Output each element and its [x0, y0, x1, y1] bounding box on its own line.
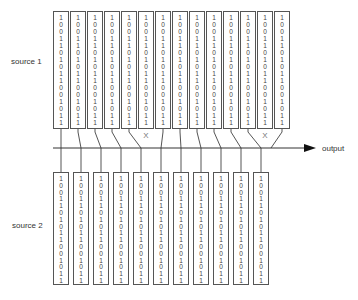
bit: 0 [195, 49, 199, 56]
bit: 0 [178, 84, 182, 91]
bit: 0 [280, 63, 284, 70]
bit: 1 [178, 77, 182, 84]
source-2-column: 1001101011001011 [54, 173, 69, 285]
bit: 1 [76, 56, 80, 63]
bit: 0 [246, 28, 250, 35]
bit: 1 [263, 14, 267, 21]
bit: 1 [127, 14, 131, 21]
bit: 0 [263, 63, 267, 70]
bit: 1 [280, 98, 284, 105]
bit: 0 [59, 28, 63, 35]
bit: 1 [229, 35, 233, 42]
bit: 1 [93, 77, 97, 84]
bit: 0 [76, 63, 80, 70]
bit: 1 [280, 70, 284, 77]
bit: 1 [127, 119, 131, 126]
bit: 0 [178, 91, 182, 98]
stream-merge-diagram: source 1 source 2 1001101011001011100110… [0, 0, 358, 300]
bit: 1 [246, 112, 250, 119]
bit: 1 [144, 119, 148, 126]
bit: 1 [59, 14, 63, 21]
bit: 0 [263, 28, 267, 35]
bit: 1 [263, 70, 267, 77]
bit: 0 [280, 105, 284, 112]
bit: 0 [178, 63, 182, 70]
bit: 1 [178, 35, 182, 42]
bit: 1 [246, 56, 250, 63]
bit: 0 [59, 105, 63, 112]
bit: 1 [178, 42, 182, 49]
bit: 1 [127, 70, 131, 77]
bit: 0 [127, 84, 131, 91]
bit: 1 [229, 98, 233, 105]
route-line [129, 128, 141, 148]
bit: 1 [59, 77, 63, 84]
bit: 1 [263, 42, 267, 49]
bit: 1 [212, 14, 216, 21]
bit: 0 [263, 84, 267, 91]
bit: 1 [195, 56, 199, 63]
bit: 1 [195, 119, 199, 126]
bit: 0 [263, 49, 267, 56]
bit: 1 [93, 35, 97, 42]
bit: 1 [229, 42, 233, 49]
bit: 1 [76, 98, 80, 105]
bit: 1 [93, 70, 97, 77]
bit: 1 [195, 112, 199, 119]
bit: 0 [246, 105, 250, 112]
bit: 1 [263, 112, 267, 119]
bit: 1 [199, 277, 203, 284]
bit: 1 [229, 70, 233, 77]
bit: 1 [59, 70, 63, 77]
bit: 1 [144, 35, 148, 42]
bit: 0 [229, 63, 233, 70]
bit: 0 [161, 28, 165, 35]
bit: 1 [127, 35, 131, 42]
bit: 1 [76, 35, 80, 42]
bit: 1 [110, 77, 114, 84]
bit: 0 [212, 28, 216, 35]
bit: 0 [229, 49, 233, 56]
source-1-column: 1001101011001011 [190, 12, 205, 129]
source-1-column: 1001101011001011 [54, 12, 69, 129]
bit: 0 [178, 21, 182, 28]
bit: 0 [76, 28, 80, 35]
bit: 1 [195, 14, 199, 21]
bit: 0 [263, 105, 267, 112]
bit: 0 [195, 21, 199, 28]
bit: 1 [246, 98, 250, 105]
bit: 1 [246, 14, 250, 21]
route-line [95, 128, 101, 148]
bit: 1 [59, 56, 63, 63]
bit: 0 [93, 105, 97, 112]
bit: 1 [76, 119, 80, 126]
bit: 1 [119, 277, 123, 284]
route-line [271, 128, 282, 148]
bit: 0 [76, 21, 80, 28]
bit: 0 [127, 49, 131, 56]
bit: 0 [144, 63, 148, 70]
bit: 1 [246, 70, 250, 77]
bit: 0 [110, 84, 114, 91]
bit: 0 [280, 21, 284, 28]
bit: 1 [144, 98, 148, 105]
bit: 0 [212, 49, 216, 56]
source-1-column: 1001101011001011 [71, 12, 86, 129]
bit: 1 [178, 14, 182, 21]
bit: 1 [263, 56, 267, 63]
bit: 1 [59, 42, 63, 49]
route-line [248, 128, 261, 148]
source-2-column: 1001101011001011 [214, 173, 229, 285]
bit: 1 [76, 77, 80, 84]
bit: 0 [246, 91, 250, 98]
bit: 1 [59, 119, 63, 126]
bit: 1 [110, 35, 114, 42]
bit: 0 [59, 49, 63, 56]
discard-x-icon: X [143, 131, 149, 140]
bit: 0 [161, 84, 165, 91]
bit: 0 [246, 63, 250, 70]
bit: 1 [59, 277, 63, 284]
bit: 0 [246, 49, 250, 56]
bit: 0 [212, 63, 216, 70]
bit: 1 [178, 119, 182, 126]
